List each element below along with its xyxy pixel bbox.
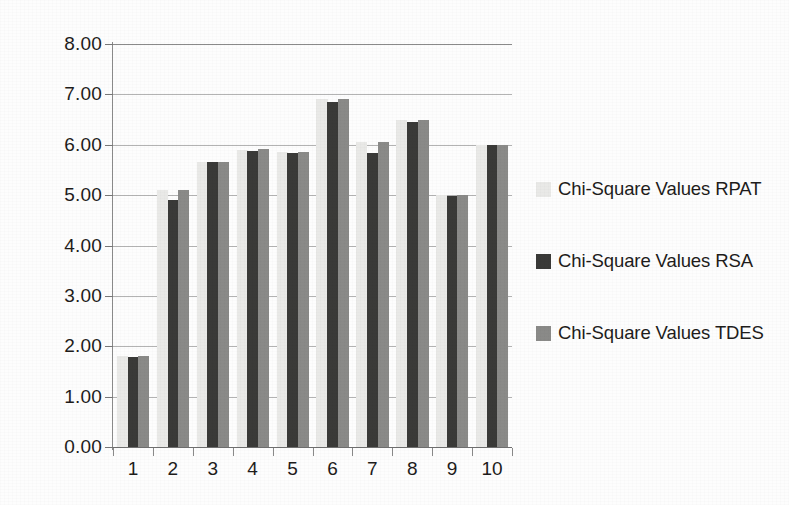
bar-tdes-1[interactable]: [138, 356, 149, 447]
bar-group-4: [237, 44, 269, 447]
bar-rpat-3[interactable]: [197, 162, 208, 447]
bar-tdes-10[interactable]: [497, 145, 508, 447]
x-axis-tick-4: [273, 448, 274, 456]
y-axis-tick-2.00: [105, 346, 113, 347]
bar-rpat-10[interactable]: [476, 145, 487, 447]
bar-rsa-10[interactable]: [487, 145, 498, 447]
y-axis-tick-labels: 0.001.002.003.004.005.006.007.008.00: [18, 0, 102, 505]
bar-rsa-2[interactable]: [168, 200, 179, 447]
bar-group-9: [436, 44, 468, 447]
bar-tdes-2[interactable]: [178, 190, 189, 447]
x-axis-label-6: 6: [327, 459, 338, 479]
bar-rpat-6[interactable]: [316, 99, 327, 447]
x-axis-tick-9: [472, 448, 473, 456]
x-axis-label-1: 1: [128, 459, 139, 479]
bar-rsa-1[interactable]: [128, 357, 139, 447]
bar-group-1: [117, 44, 149, 447]
bar-tdes-9[interactable]: [457, 195, 468, 447]
x-axis-tick-6: [352, 448, 353, 456]
bar-rsa-6[interactable]: [327, 102, 338, 447]
x-axis-label-7: 7: [367, 459, 378, 479]
y-axis-label-7.00: 7.00: [28, 84, 102, 103]
bar-group-5: [277, 44, 309, 447]
bar-rpat-2[interactable]: [157, 190, 168, 447]
x-axis-label-3: 3: [207, 459, 218, 479]
x-axis-tick-end: [512, 448, 513, 456]
x-axis-label-8: 8: [407, 459, 418, 479]
bar-rsa-4[interactable]: [247, 151, 258, 447]
y-axis-label-6.00: 6.00: [28, 135, 102, 154]
bar-rsa-9[interactable]: [447, 196, 458, 447]
bar-rpat-1[interactable]: [117, 356, 128, 447]
legend-swatch-rsa-icon: [536, 254, 551, 269]
bar-rpat-7[interactable]: [356, 142, 367, 447]
bar-tdes-5[interactable]: [298, 152, 309, 447]
bar-rsa-7[interactable]: [367, 153, 378, 447]
x-axis-tick-5: [313, 448, 314, 456]
x-axis-tick-2: [193, 448, 194, 456]
x-axis-tick-7: [392, 448, 393, 456]
bar-tdes-3[interactable]: [218, 162, 229, 447]
bar-rpat-5[interactable]: [277, 152, 288, 447]
y-axis-tick-1.00: [105, 397, 113, 398]
legend-swatch-tdes-icon: [536, 326, 551, 341]
y-axis-label-4.00: 4.00: [28, 236, 102, 255]
y-axis-tick-5.00: [105, 195, 113, 196]
y-axis-tick-7.00: [105, 94, 113, 95]
legend-swatch-rpat-icon: [536, 182, 551, 197]
y-axis-tick-0.00: [105, 447, 113, 448]
bar-tdes-7[interactable]: [378, 142, 389, 447]
legend-label-tdes: Chi-Square Values TDES: [558, 323, 764, 343]
y-axis-label-0.00: 0.00: [28, 437, 102, 456]
bar-rpat-4[interactable]: [237, 150, 248, 447]
bar-tdes-4[interactable]: [258, 149, 269, 447]
legend-label-rsa: Chi-Square Values RSA: [558, 251, 753, 271]
bar-group-2: [157, 44, 189, 447]
plot-area: [113, 44, 512, 447]
y-axis-tick-4.00: [105, 246, 113, 247]
bar-rsa-3[interactable]: [207, 162, 218, 447]
y-axis-label-8.00: 8.00: [28, 34, 102, 53]
y-axis-label-5.00: 5.00: [28, 185, 102, 204]
chart-legend: Chi-Square Values RPATChi-Square Values …: [536, 176, 784, 392]
legend-entry-rpat[interactable]: Chi-Square Values RPAT: [536, 176, 784, 202]
y-axis-label-1.00: 1.00: [28, 387, 102, 406]
bar-group-10: [476, 44, 508, 447]
legend-entry-tdes[interactable]: Chi-Square Values TDES: [536, 320, 784, 346]
bar-group-3: [197, 44, 229, 447]
x-axis-tick-1: [153, 448, 154, 456]
chart-figure: 0.001.002.003.004.005.006.007.008.00 Chi…: [0, 0, 789, 505]
bar-group-7: [356, 44, 388, 447]
bar-rpat-8[interactable]: [396, 120, 407, 447]
y-axis-tick-8.00: [105, 44, 113, 45]
x-axis-tick-0: [113, 448, 114, 456]
x-axis-tick-8: [432, 448, 433, 456]
bar-rsa-8[interactable]: [407, 122, 418, 447]
bar-rsa-5[interactable]: [287, 153, 298, 447]
bar-rpat-9[interactable]: [436, 195, 447, 447]
y-axis-tick-3.00: [105, 296, 113, 297]
y-axis-label-3.00: 3.00: [28, 286, 102, 305]
y-axis-label-2.00: 2.00: [28, 336, 102, 355]
bar-group-8: [396, 44, 428, 447]
bar-tdes-8[interactable]: [418, 120, 429, 447]
x-axis-label-4: 4: [247, 459, 258, 479]
legend-label-rpat: Chi-Square Values RPAT: [558, 179, 761, 199]
x-axis-label-5: 5: [287, 459, 298, 479]
x-axis-label-10: 10: [481, 459, 502, 479]
x-axis-label-9: 9: [447, 459, 458, 479]
x-axis-label-2: 2: [168, 459, 179, 479]
y-axis-tick-6.00: [105, 145, 113, 146]
bar-tdes-6[interactable]: [338, 99, 349, 447]
legend-entry-rsa[interactable]: Chi-Square Values RSA: [536, 248, 784, 274]
x-axis-tick-3: [233, 448, 234, 456]
bar-group-6: [316, 44, 348, 447]
